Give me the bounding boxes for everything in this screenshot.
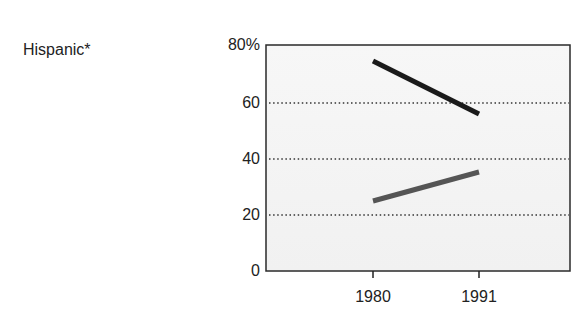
y-tick-0: 0 (210, 262, 260, 280)
y-tick-80: 80% (210, 36, 260, 54)
y-tick-60: 60 (210, 94, 260, 112)
x-tick-1991: 1991 (449, 288, 509, 306)
x-tick-1980: 1980 (343, 288, 403, 306)
y-tick-40: 40 (210, 150, 260, 168)
plot-area (266, 45, 570, 271)
line-chart (0, 0, 580, 323)
y-tick-20: 20 (210, 206, 260, 224)
x-ticks (373, 271, 479, 278)
